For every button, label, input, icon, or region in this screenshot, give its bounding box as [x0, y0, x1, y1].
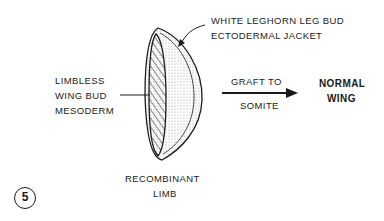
recombinant-label-line2: LIMB — [153, 186, 177, 201]
result-label-line2: WING — [327, 91, 356, 106]
mesoderm-label-line3: MESODERM — [55, 103, 114, 118]
result-label-line1: NORMAL — [319, 76, 365, 91]
graft-label-line1: GRAFT TO — [231, 74, 282, 89]
ectoderm-label-line2: ECTODERMAL JACKET — [211, 28, 322, 43]
mesoderm-label-line1: LIMBLESS — [55, 73, 105, 88]
ectoderm-label-line1: WHITE LEGHORN LEG BUD — [211, 13, 344, 28]
figure-number-badge: 5 — [14, 187, 36, 209]
graft-label-line2: SOMITE — [240, 98, 279, 113]
recombinant-label-line1: RECOMBINANT — [125, 171, 200, 186]
mesoderm-label-line2: WING BUD — [55, 88, 107, 103]
